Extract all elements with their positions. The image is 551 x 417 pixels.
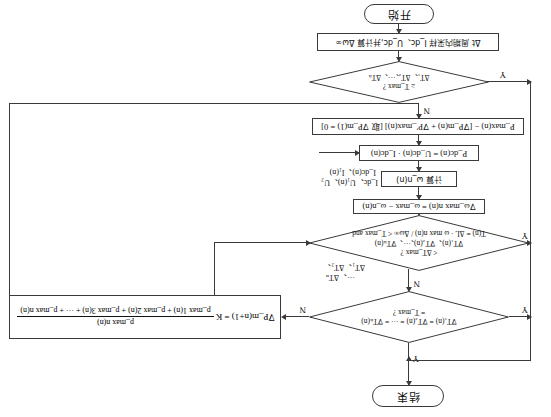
left-return-bus <box>530 81 531 361</box>
decision-middle-line2: ∇T₁(n)、∇T₂(n)、···、∇Tₙ(n) <box>352 238 486 247</box>
branch-label-middle-yes: Y <box>522 231 529 241</box>
formula-numerator: p_max n(n) <box>94 318 137 328</box>
arrowhead-to-formula <box>281 314 286 320</box>
process-pdc: P_dc(n) = U_dc(n) · I_dc(n) <box>359 145 479 161</box>
branch-label-top-yes-left: Y <box>522 305 529 315</box>
arrowhead-left-return-bus <box>406 356 412 361</box>
branch-label-bottom-yes: Y <box>500 70 507 80</box>
process-grad-omega: ∇ω_max n(n) = ω_max − ω_n(n) <box>353 199 485 214</box>
terminal-start: 开始 <box>364 4 434 24</box>
process-pdc-label: P_dc(n) = U_dc(n) · I_dc(n) <box>371 148 467 158</box>
arrowhead-pmax-to-pdc <box>416 141 422 146</box>
label-side-inputs-line2: I_dc、U₁(n)、U₂ <box>321 178 378 189</box>
arrowhead-to-end <box>406 381 412 386</box>
arrowhead-botdecision-to-pmax <box>416 114 422 119</box>
connector-rightbus-vertical <box>9 103 10 295</box>
arrowhead-start-to-sample <box>396 29 402 34</box>
terminal-end-label: 结束 <box>396 390 420 403</box>
arrowhead-middecision-to-topdecision <box>406 287 412 292</box>
process-grad-omega-label: ∇ω_max n(n) = ω_max − ω_n(n) <box>362 202 475 212</box>
decision-top: ∇T₁(n) = ∇T₂(n) = ··· = ∇Tₙ(n) = T_max ? <box>309 291 509 343</box>
decision-top-line1: ∇T₁(n) = ∇T₂(n) = ··· = ∇Tₙ(n) <box>361 317 457 326</box>
branch-label-middle-no: N <box>414 279 421 289</box>
connector-botdecision-left <box>487 81 531 82</box>
process-sample-label: Δt 周期内采样 I_dc、U_dc,并计算 Δω∞ <box>336 37 481 46</box>
connector-formula-down <box>214 243 215 295</box>
process-pmax-label: P_max(n) − [∇P_m(n) + ∇P′_max(n)] [取 ∇P_… <box>321 122 515 132</box>
flowchart-canvas: 结束 Y ∇T₁(n) = ∇T₂(n) = ··· = ∇Tₙ(n) = T_… <box>0 0 551 417</box>
branch-label-top-no: N <box>300 305 307 315</box>
label-delta-T-line2: ···、ΔTₙ <box>326 273 355 284</box>
arrowhead-inputs-to-pdc <box>355 150 360 156</box>
decision-bottom: ≥ T_max ? ΔT₁、ΔT₂、···、ΔTₙ <box>309 61 489 103</box>
connector-formula-to-middecision <box>214 242 310 243</box>
branch-label-top-yes: Y <box>413 354 420 364</box>
decision-top-text: ∇T₁(n) = ∇T₂(n) = ··· = ∇Tₙ(n) = T_max ? <box>309 291 509 343</box>
arrowhead-omegacalc-to-gradomega <box>416 195 422 200</box>
process-omega-calc-label: 计算 ω_n(n) <box>396 174 442 183</box>
process-sample: Δt 周期内采样 I_dc、U_dc,并计算 Δω∞ <box>317 33 499 51</box>
formula-box-gradient: ∇P_m(n+1) = K p_max n(n) p_max 1(n) + p_… <box>9 295 281 339</box>
arrowhead-pdc-to-omegacalc <box>416 167 422 172</box>
terminal-end: 结束 <box>372 385 444 407</box>
formula-lhs: ∇P_m(n+1) = K <box>216 312 275 322</box>
formula-denominator: p_max 1(n) + p_max 2(n) + p_max 3(n) + ·… <box>17 307 213 318</box>
decision-middle-line3: < ΔT_max ? <box>352 248 486 257</box>
decision-bottom-text: ≥ T_max ? ΔT₁、ΔT₂、···、ΔTₙ <box>309 61 489 103</box>
left-return-bus-top <box>409 360 531 361</box>
formula-fraction: p_max n(n) p_max 1(n) + p_max 2(n) + p_m… <box>17 307 213 328</box>
connector-topdecision-to-formula <box>285 316 309 317</box>
arrowhead-sample-to-botdecision <box>396 57 402 62</box>
process-omega-calc: 计算 ω_n(n) <box>381 171 457 187</box>
decision-bottom-line1: ΔT₁、ΔT₂、···、ΔTₙ <box>368 73 429 82</box>
decision-top-line2: = T_max ? <box>361 308 457 317</box>
terminal-start-label: 开始 <box>387 8 411 21</box>
branch-label-bottom-no: N <box>424 106 431 116</box>
decision-middle-line1: T(n) = ΔL · ω max n(n) / Δω∞ < T_max and <box>352 229 486 238</box>
connector-rightbus-to-botdecision <box>9 103 419 104</box>
decision-bottom-line2: ≥ T_max ? <box>368 82 429 91</box>
connector-inputs-to-pdc <box>319 152 359 153</box>
connector-topdecision-to-end <box>408 343 409 385</box>
process-pmax: P_max(n) − [∇P_m(n) + ∇P′_max(n)] [取 ∇P_… <box>312 118 524 135</box>
